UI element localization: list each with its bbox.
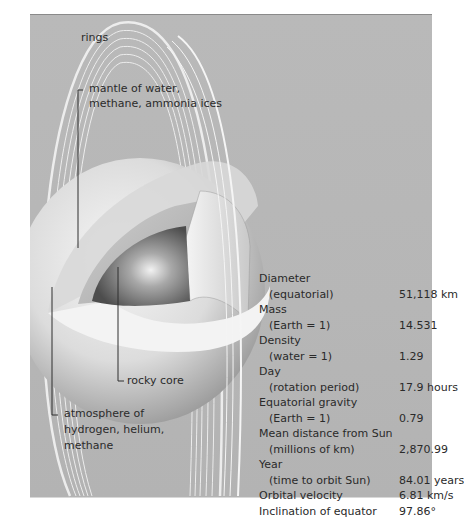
label-atmosphere-line2: hydrogen, helium, bbox=[64, 423, 164, 438]
label-rings: rings bbox=[81, 31, 108, 46]
stat-value: 17.9 hours bbox=[399, 380, 458, 396]
label-core: rocky core bbox=[127, 374, 184, 389]
label-atmosphere-line1: atmosphere of bbox=[64, 407, 144, 422]
stat-label: Mass bbox=[259, 302, 287, 318]
stat-value: 1.29 bbox=[399, 349, 424, 365]
stat-value: 97.86° bbox=[399, 504, 436, 519]
stat-sublabel: (water = 1) bbox=[269, 349, 332, 365]
stat-value: 51,118 km bbox=[399, 287, 458, 303]
stat-label: Year bbox=[259, 457, 282, 473]
stat-sublabel: (time to orbit Sun) bbox=[269, 473, 371, 489]
stat-label: Inclination of equator bbox=[259, 504, 377, 519]
stat-value: 2,870.99 bbox=[399, 442, 448, 458]
stat-label: Equatorial gravity bbox=[259, 395, 357, 411]
stat-label: Density bbox=[259, 333, 301, 349]
stat-sublabel: (equatorial) bbox=[269, 287, 333, 303]
stat-label: Diameter bbox=[259, 271, 310, 287]
stat-value: 6.81 km/s bbox=[399, 488, 454, 504]
stat-sublabel: (Earth = 1) bbox=[269, 318, 330, 334]
label-atmosphere-line3: methane bbox=[64, 439, 113, 454]
stat-label: Day bbox=[259, 364, 281, 380]
stat-label: Mean distance from Sun bbox=[259, 426, 393, 442]
stat-label: Orbital velocity bbox=[259, 488, 343, 504]
stat-value: 84.01 years bbox=[399, 473, 464, 489]
stat-value: 14.531 bbox=[399, 318, 438, 334]
label-mantle-line1: mantle of water, bbox=[89, 82, 180, 97]
stat-sublabel: (millions of km) bbox=[269, 442, 355, 458]
stat-sublabel: (rotation period) bbox=[269, 380, 359, 396]
stat-sublabel: (Earth = 1) bbox=[269, 411, 330, 427]
label-mantle-line2: methane, ammonia ices bbox=[89, 97, 222, 112]
stat-value: 0.79 bbox=[399, 411, 424, 427]
